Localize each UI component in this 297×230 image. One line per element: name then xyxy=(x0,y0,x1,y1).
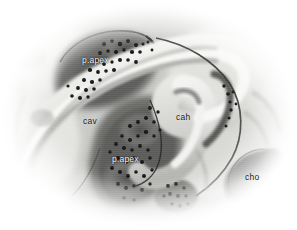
histology-figure: p.apex cav cah p.apex cho xyxy=(0,0,297,230)
tissue-rendering xyxy=(0,0,297,230)
